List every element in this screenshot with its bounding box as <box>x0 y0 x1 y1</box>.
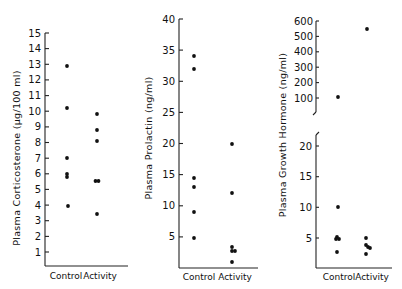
tick-label: 11 <box>28 90 41 101</box>
corticosterone-control-points <box>65 64 70 208</box>
tick-label: 7 <box>35 153 41 164</box>
growth-hormone-panel: Plasma Growth Hormone (ng/ml) 100 200 30… <box>277 16 392 283</box>
corticosterone-y-ticks: 1 2 3 4 5 6 7 8 9 10 11 12 13 14 15 <box>28 28 49 258</box>
tick-label: 15 <box>299 171 312 182</box>
growth-hormone-control-points <box>334 95 341 254</box>
tick-label: 2 <box>35 231 41 242</box>
tick-label: 20 <box>299 141 312 152</box>
tick-label: 15 <box>28 28 41 39</box>
tick-label: 20 <box>162 138 175 149</box>
prolactin-panel: Plasma Prolactin (ng/ml) 5 10 15 20 25 3… <box>143 14 258 283</box>
tick-label: 300 <box>294 62 313 73</box>
tick-label: 3 <box>35 215 41 226</box>
tick-label: 500 <box>294 31 313 42</box>
axis-break-mark <box>313 112 316 115</box>
growth-hormone-activity-points <box>364 27 372 256</box>
tick-label: 10 <box>299 202 312 213</box>
tick-label: 12 <box>28 74 41 85</box>
tick-label: 6 <box>35 168 41 179</box>
tick-label: 9 <box>35 121 41 132</box>
tick-label: 10 <box>28 106 41 117</box>
growth-hormone-category-control: Control <box>323 272 356 282</box>
tick-label: 100 <box>294 93 313 104</box>
tick-label: 1 <box>35 247 41 258</box>
tick-label: 30 <box>162 76 175 87</box>
tick-label: 15 <box>162 169 175 180</box>
axis-break-mark <box>316 132 319 135</box>
tick-label: 600 <box>294 16 313 27</box>
tick-label: 400 <box>294 46 313 57</box>
growth-hormone-y-axis-label: Plasma Growth Hormone (ng/ml) <box>277 53 288 218</box>
prolactin-category-control: Control <box>183 272 216 282</box>
tick-label: 8 <box>35 137 41 148</box>
figure-canvas: Plasma Corticosterone (µg/100 ml) 1 2 3 … <box>0 0 402 289</box>
tick-label: 14 <box>28 43 41 54</box>
corticosterone-category-control: Control <box>50 271 83 281</box>
tick-label: 10 <box>162 200 175 211</box>
tick-label: 5 <box>169 231 175 242</box>
prolactin-control-points <box>192 54 196 240</box>
tick-label: 4 <box>35 200 41 211</box>
tick-label: 40 <box>162 14 175 25</box>
prolactin-y-axis-label: Plasma Prolactin (ng/ml) <box>143 76 154 199</box>
prolactin-y-ticks: 5 10 15 20 25 30 35 40 <box>162 14 183 243</box>
growth-hormone-category-activity: Activity <box>355 272 389 282</box>
corticosterone-activity-points <box>94 112 101 216</box>
prolactin-category-activity: Activity <box>218 272 252 282</box>
corticosterone-panel: Plasma Corticosterone (µg/100 ml) 1 2 3 … <box>11 28 128 282</box>
tick-label: 13 <box>28 59 41 70</box>
tick-label: 25 <box>162 107 175 118</box>
prolactin-activity-points <box>230 142 237 264</box>
corticosterone-category-activity: Activity <box>83 271 117 281</box>
tick-label: 35 <box>162 45 175 56</box>
tick-label: 200 <box>294 77 313 88</box>
tick-label: 5 <box>35 184 41 195</box>
corticosterone-y-axis-label: Plasma Corticosterone (µg/100 ml) <box>11 70 22 246</box>
growth-hormone-upper-ticks: 100 200 300 400 500 600 <box>294 16 319 104</box>
tick-label: 5 <box>306 233 312 244</box>
